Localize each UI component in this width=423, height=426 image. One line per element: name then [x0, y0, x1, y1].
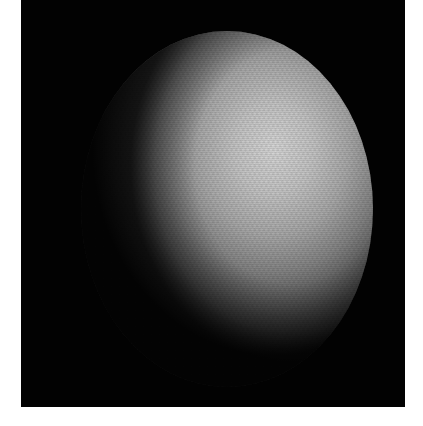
- caption: [21, 410, 405, 424]
- planet-disk: [81, 31, 373, 387]
- planet-surface-texture: [81, 31, 373, 387]
- photo-frame: [21, 0, 405, 407]
